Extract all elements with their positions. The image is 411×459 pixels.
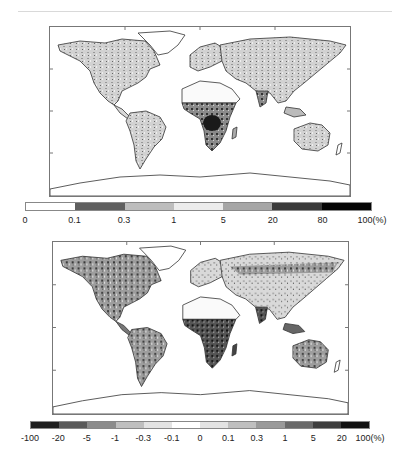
- world-map-top: [50, 27, 350, 196]
- colorbar-segment: [223, 203, 272, 210]
- colorbar-tick-label: 20: [268, 214, 278, 226]
- colorbar-tick-label: 1: [282, 432, 287, 444]
- colorbar-tick-label: 0.1: [222, 432, 235, 444]
- header-divider: [18, 11, 392, 12]
- colorbar-segment: [116, 422, 144, 428]
- map-panel-bottom: [52, 241, 349, 415]
- colorbar-tick-label: -1: [111, 432, 119, 444]
- map-panel-top: [49, 26, 351, 197]
- colorbar-tick-label: -0.1: [164, 432, 180, 444]
- colorbar-tick-label: 20: [337, 432, 347, 444]
- colorbar-tick-label: 0: [197, 432, 202, 444]
- colorbar-segment: [341, 422, 369, 428]
- colorbar-tick-label: 80: [317, 214, 327, 226]
- continents: [50, 31, 350, 196]
- colorbar-tick-label: 0.3: [118, 214, 131, 226]
- colorbar-segment: [75, 203, 124, 210]
- colorbar-segment: [26, 203, 75, 210]
- colorbar-segment: [172, 422, 200, 428]
- colorbar-segment: [31, 422, 59, 428]
- colorbar-segment: [144, 422, 172, 428]
- colorbar-segment: [285, 422, 313, 428]
- colorbar-bottom: [30, 421, 370, 429]
- colorbar-segment: [272, 203, 321, 210]
- colorbar-segment: [87, 422, 115, 428]
- colorbar-tick-label: -0.3: [136, 432, 152, 444]
- colorbar-segment: [174, 203, 223, 210]
- colorbar-tick-label: 5: [311, 432, 316, 444]
- colorbar-segment: [322, 203, 371, 210]
- continents: [53, 246, 348, 414]
- colorbar-tick-label: 100(%): [355, 432, 384, 444]
- colorbar-tick-label: 0: [22, 214, 27, 226]
- colorbar-top-labels: 0 0.1 0.3 1 5 20 80 100(%): [25, 214, 372, 228]
- colorbar-top: [25, 202, 372, 211]
- colorbar-segment: [59, 422, 87, 428]
- colorbar-tick-label: -5: [83, 432, 91, 444]
- colorbar-tick-label: 0.1: [68, 214, 81, 226]
- colorbar-segment: [125, 203, 174, 210]
- colorbar-segment: [200, 422, 228, 428]
- colorbar-segment: [256, 422, 284, 428]
- colorbar-tick-label: 5: [221, 214, 226, 226]
- colorbar-segment: [228, 422, 256, 428]
- world-map-bottom: [53, 242, 348, 414]
- colorbar-tick-label: 0.3: [250, 432, 263, 444]
- colorbar-tick-label: 1: [171, 214, 176, 226]
- colorbar-tick-label: -100: [21, 432, 39, 444]
- colorbar-segment: [313, 422, 341, 428]
- colorbar-tick-label: 100(%): [357, 214, 386, 226]
- colorbar-bottom-labels: -100 -20 -5 -1 -0.3 -0.1 0 0.1 0.3 1 5 2…: [30, 432, 370, 446]
- colorbar-tick-label: -20: [52, 432, 65, 444]
